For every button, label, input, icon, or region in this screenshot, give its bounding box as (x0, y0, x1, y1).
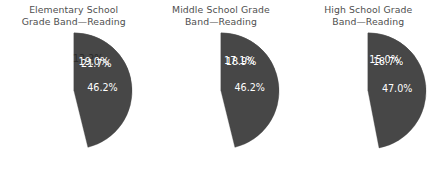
pie-chart-high: 19.4%18.7%15.0%47.0% (309, 32, 427, 150)
chart-panel-elementary: Elementary School Grade Band—Reading 13.… (0, 0, 147, 169)
pie-slice (368, 33, 426, 148)
chart-title-high: High School Grade Band—Reading (298, 4, 438, 29)
pie-svg-elementary (15, 32, 133, 150)
pie-svg-high (309, 32, 427, 150)
pie-chart-figure: Elementary School Grade Band—Reading 13.… (0, 0, 442, 169)
pie-slice (221, 33, 279, 147)
pie-slice (74, 33, 132, 147)
chart-panel-high: High School Grade Band—Reading 19.4%18.7… (295, 0, 442, 169)
chart-title-middle: Middle School Grade Band—Reading (151, 4, 291, 29)
pie-chart-elementary: 13.2%21.7%19.0%46.2% (15, 32, 133, 150)
pie-chart-middle: 17.9%18.9%17.1%46.2% (162, 32, 280, 150)
chart-title-elementary: Elementary School Grade Band—Reading (4, 4, 144, 29)
pie-svg-middle (162, 32, 280, 150)
chart-panel-middle: Middle School Grade Band—Reading 17.9%18… (147, 0, 294, 169)
